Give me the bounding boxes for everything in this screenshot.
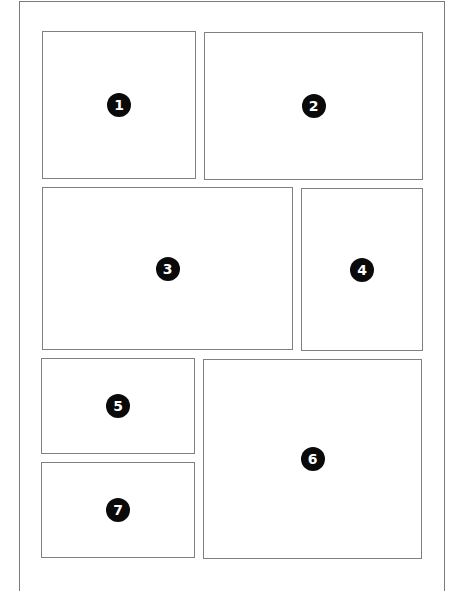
panel-6: 6 [203, 359, 422, 559]
panel-number-badge: 4 [350, 258, 374, 282]
panel-7: 7 [41, 462, 195, 558]
panel-number-badge: 5 [106, 394, 130, 418]
panel-3: 3 [42, 187, 293, 350]
panel-number-badge: 3 [156, 257, 180, 281]
panel-2: 2 [204, 32, 423, 180]
panel-number-badge: 1 [107, 93, 131, 117]
panel-5: 5 [41, 358, 195, 454]
panel-number-badge: 2 [302, 94, 326, 118]
panel-number-badge: 6 [301, 447, 325, 471]
panel-1: 1 [42, 31, 196, 179]
panel-4: 4 [301, 188, 423, 351]
panel-number-badge: 7 [106, 498, 130, 522]
